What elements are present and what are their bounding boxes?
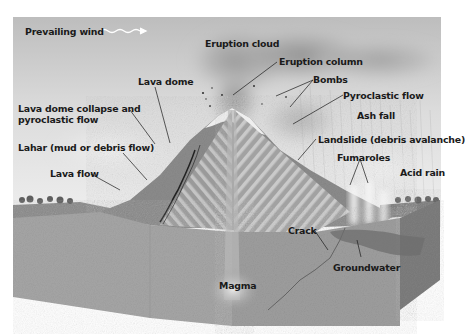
label-bombs: Bombs <box>313 74 348 85</box>
label-groundwater: Groundwater <box>333 262 400 273</box>
label-crack: Crack <box>288 225 317 236</box>
label-acid-rain: Acid rain <box>400 167 445 178</box>
ground-block-front <box>13 212 232 326</box>
label-landslide: Landslide (debris avalanche) <box>318 134 465 145</box>
label-eruption-cloud: Eruption cloud <box>205 38 279 49</box>
label-pyroclastic-flow: Pyroclastic flow <box>343 90 424 101</box>
label-lava-dome-collapse-1: Lava dome collapse and <box>18 103 141 114</box>
label-lava-dome-collapse-2: pyroclastic flow <box>18 114 98 125</box>
label-lahar: Lahar (mud or debris flow) <box>18 142 154 153</box>
label-lava-flow: Lava flow <box>50 168 99 179</box>
label-ash-fall: Ash fall <box>357 110 395 121</box>
label-lava-dome: Lava dome <box>138 76 193 87</box>
label-fumaroles: Fumaroles <box>337 152 390 163</box>
label-prevailing-wind: Prevailing wind <box>25 26 104 37</box>
label-eruption-column: Eruption column <box>279 56 363 67</box>
label-magma: Magma <box>219 280 256 291</box>
